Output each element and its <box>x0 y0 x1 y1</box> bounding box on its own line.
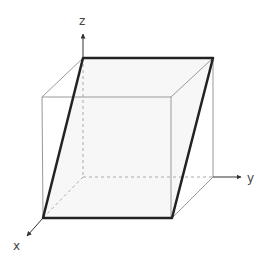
x-axis <box>27 218 43 236</box>
x-axis-label: x <box>13 239 20 253</box>
cube-diagram: z y x <box>0 0 270 265</box>
y-axis-label: y <box>247 171 254 185</box>
cube-svg: z y x <box>0 0 270 265</box>
z-axis-label: z <box>79 14 85 28</box>
